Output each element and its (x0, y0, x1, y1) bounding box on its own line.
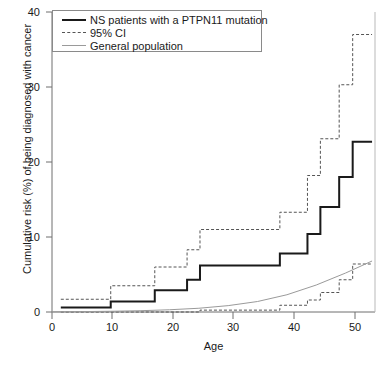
series-path-3 (52, 261, 372, 312)
legend-key-solid-line-icon (60, 14, 88, 26)
x-axis-ticks (52, 312, 355, 319)
legend-item-95-ci: 95% CI (53, 27, 261, 39)
series-path-2 (61, 264, 372, 312)
legend-key-dotted-line-icon (60, 27, 88, 39)
legend-label-ns-patients: NS patients with a PTPN11 mutation (88, 14, 268, 26)
series-path-0 (61, 142, 372, 308)
legend-key-thin-line-icon (60, 40, 88, 52)
data-series-layer (52, 35, 372, 313)
legend-item-general-population: General population (53, 40, 261, 52)
y-tick-label-0: 0 (14, 306, 40, 318)
y-tick-label-40: 40 (14, 6, 40, 18)
series-path-1 (61, 35, 372, 300)
chart-legend: NS patients with a PTPN11 mutation 95% C… (52, 10, 262, 52)
x-tick-label-40: 40 (284, 321, 304, 333)
legend-item-ns-patients: NS patients with a PTPN11 mutation (53, 14, 261, 26)
plot-canvas (0, 0, 392, 367)
axis-frame (52, 12, 375, 312)
x-tick-label-0: 0 (42, 321, 62, 333)
y-tick-label-10: 10 (14, 231, 40, 243)
cumulative-risk-chart: Cumulative risk (%) of being diagnosed w… (0, 0, 392, 367)
x-tick-label-50: 50 (345, 321, 365, 333)
legend-label-general-population: General population (88, 40, 183, 52)
legend-label-95-ci: 95% CI (88, 27, 126, 39)
x-tick-label-10: 10 (102, 321, 122, 333)
x-axis-label: Age (52, 340, 375, 352)
y-tick-label-20: 20 (14, 156, 40, 168)
y-axis-ticks (46, 12, 52, 312)
x-tick-label-30: 30 (223, 321, 243, 333)
y-tick-label-30: 30 (14, 81, 40, 93)
x-tick-label-20: 20 (163, 321, 183, 333)
